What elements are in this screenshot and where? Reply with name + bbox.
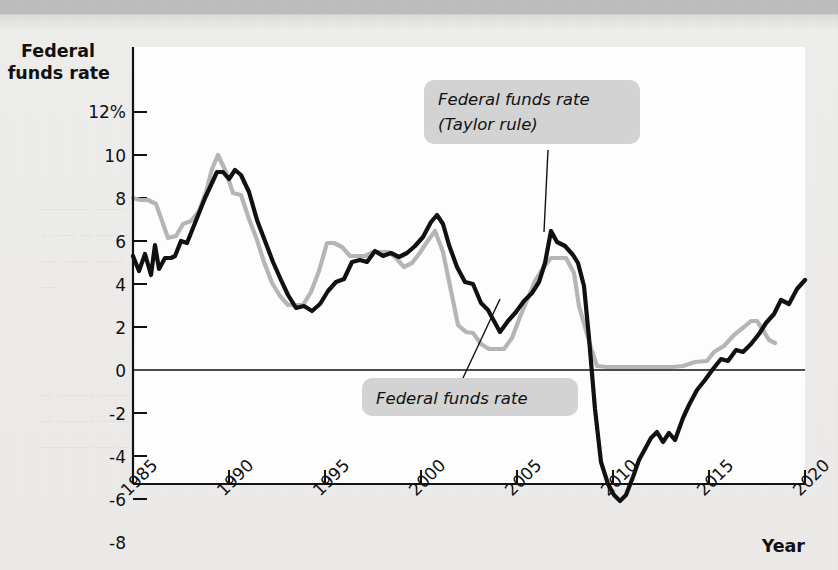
y-tick-label: 4 xyxy=(115,275,126,295)
y-tick-label: -8 xyxy=(109,533,126,553)
y-axis-title-line1: Federal xyxy=(21,41,95,61)
y-tick-marks xyxy=(133,112,147,499)
annotation-federal-funds-rate: Federal funds rate xyxy=(362,378,578,416)
annotation-taylor-rule-line1: Federal funds rate xyxy=(438,90,590,109)
leader-line-actual xyxy=(463,299,500,378)
x-tick-label: 2015 xyxy=(693,455,738,500)
federal-funds-rate-chart: Federal funds rate Year 12% 10 8 6 4 2 0… xyxy=(0,0,838,570)
y-tick-label: 10 xyxy=(104,146,126,166)
y-tick-label: 6 xyxy=(115,232,126,252)
y-tick-label: -4 xyxy=(109,447,126,467)
x-tick-label: 1995 xyxy=(309,455,354,500)
series-federal-funds-rate-taylor-rule xyxy=(133,170,805,501)
annotation-federal-funds-rate-text: Federal funds rate xyxy=(376,389,528,408)
x-tick-label: 2000 xyxy=(405,455,450,500)
y-tick-label: 0 xyxy=(115,361,126,381)
annotation-taylor-rule-line2: (Taylor rule) xyxy=(438,115,538,134)
y-axis-title-line2: funds rate xyxy=(8,63,110,83)
y-tick-label: 12% xyxy=(88,102,126,122)
y-tick-label: 8 xyxy=(115,189,126,209)
x-tick-label: 1990 xyxy=(213,455,258,500)
x-tick-label: 2020 xyxy=(789,455,834,500)
y-tick-label: 2 xyxy=(115,318,126,338)
y-tick-label: -2 xyxy=(109,404,126,424)
x-tick-label: 2005 xyxy=(501,455,546,500)
leader-line-taylor xyxy=(544,150,548,232)
annotation-taylor-rule: Federal funds rate (Taylor rule) xyxy=(424,80,640,144)
x-axis-title: Year xyxy=(761,536,806,556)
x-tick-labels: 1985 1990 1995 2000 2005 2010 2015 2020 xyxy=(117,455,834,500)
